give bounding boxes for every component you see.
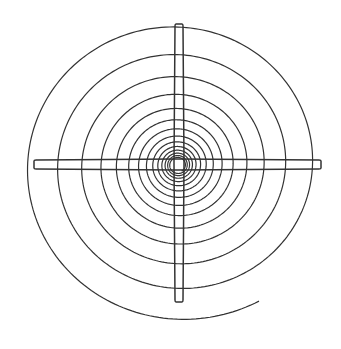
background <box>0 0 341 349</box>
center-gap <box>175 161 183 169</box>
spiral-crosshair-figure <box>0 0 341 349</box>
figure-svg <box>0 0 341 349</box>
